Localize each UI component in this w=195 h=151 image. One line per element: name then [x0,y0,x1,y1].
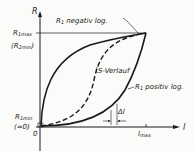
delta-l-label: Δl [118,109,125,116]
positive-log-label: R1 positiv log. [135,84,184,91]
x-axis-arrow-icon [173,125,180,129]
r1min-approx-label: (≈0) [14,124,30,131]
y-axis-label: R [32,8,38,16]
leader-positive-log [128,87,134,89]
r2min-label: (R2min) [11,43,34,50]
potentiometer-curve-diagram: R l lmax R1max (R2min) R1min (≈0) 0 R1 n… [0,0,195,151]
s-verlauf-label: S-Verlauf [98,68,129,75]
lmax-label: lmax [138,131,151,138]
leader-negative-log [123,18,139,34]
x-axis-label: l [183,124,185,132]
r1min-label: R1min [15,114,33,121]
delta-l-arrowhead-right-icon [117,120,120,122]
y-axis-arrow-icon [38,11,42,17]
origin-label: 0 [33,131,37,138]
negative-log-label: R1 negativ log. [56,18,108,25]
delta-l-arrowhead-left-icon [108,120,111,122]
r1max-label: R1max [13,30,32,37]
